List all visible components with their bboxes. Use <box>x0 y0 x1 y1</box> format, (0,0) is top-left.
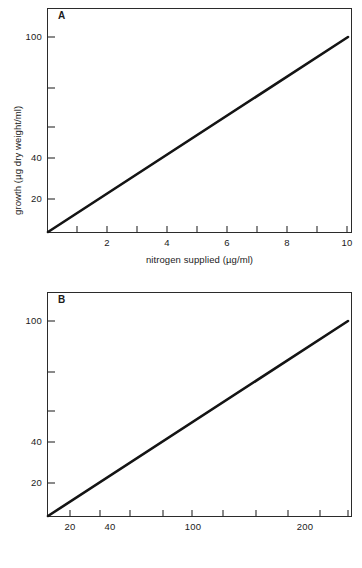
ytick-label-40-b: 40 <box>8 436 42 447</box>
xtick-label-10-a: 10 <box>332 237 362 248</box>
xtick-label-40-b: 40 <box>95 521 125 532</box>
y-ticks-b <box>47 321 55 483</box>
xaxis-title-a: nitrogen supplied (µg/ml) <box>47 254 352 265</box>
xtick-label-20-b: 20 <box>55 521 85 532</box>
xtick-label-100-b: 100 <box>178 521 208 532</box>
panel-b: B <box>0 284 362 568</box>
xtick-label-2-a: 2 <box>92 237 122 248</box>
x-ticks-a <box>77 226 347 233</box>
yaxis-title-a: growth (µg dry weight/ml) <box>12 106 23 215</box>
xtick-label-4-a: 4 <box>152 237 182 248</box>
ytick-label-100-b: 100 <box>8 315 42 326</box>
panel-a: A <box>0 0 362 284</box>
ytick-label-100-a: 100 <box>8 31 42 42</box>
y-ticks-a <box>47 37 55 199</box>
data-line-a <box>48 37 348 232</box>
data-line-b <box>48 321 348 516</box>
xtick-label-8-a: 8 <box>272 237 302 248</box>
x-ticks-b <box>70 510 348 517</box>
figure-container: A <box>0 0 362 568</box>
xtick-label-200-b: 200 <box>290 521 320 532</box>
xtick-label-6-a: 6 <box>212 237 242 248</box>
ytick-label-20-b: 20 <box>8 477 42 488</box>
